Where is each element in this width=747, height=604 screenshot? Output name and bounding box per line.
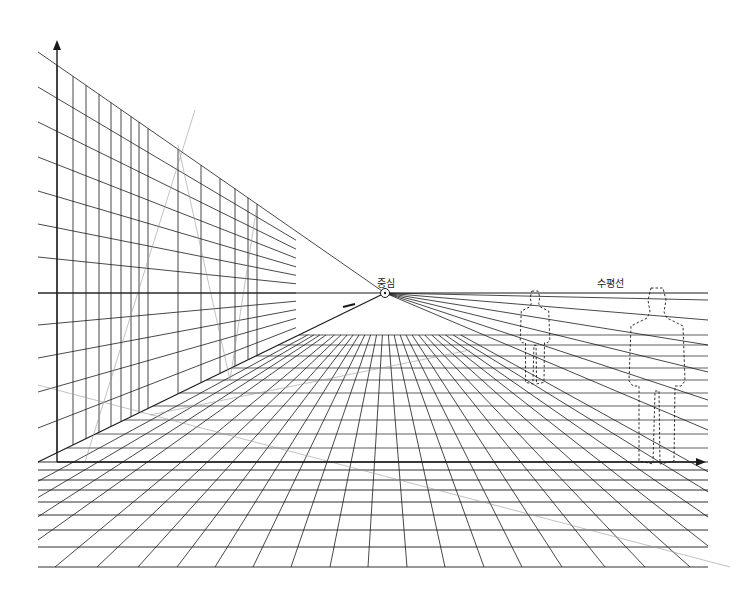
floor-radial-line (97, 335, 341, 567)
floor-radial-line (138, 335, 347, 567)
floor-right-receding-line (385, 293, 708, 372)
floor-radial-line (368, 335, 382, 567)
right-arrow-icon (696, 458, 706, 466)
floor-radial-line (461, 335, 708, 472)
floor-radial-line (394, 335, 445, 567)
floor-radial-line (38, 335, 308, 481)
floor-grid (38, 293, 708, 567)
floor-right-receding-line (385, 293, 708, 400)
vanishing-point-dot-icon (384, 292, 386, 294)
floor-radial-line (55, 335, 334, 567)
floor-radial-line (388, 335, 407, 567)
vp-marker-stroke (343, 304, 355, 307)
floor-right-receding-line (385, 293, 708, 320)
floor-radial-line (425, 335, 645, 567)
construction-line (38, 385, 730, 567)
floor-radial-line (412, 335, 562, 567)
floor-radial-line (406, 335, 522, 567)
floor-radial-line (400, 335, 484, 567)
floor-radial-line (419, 335, 605, 567)
wall-receding-line (38, 52, 385, 293)
axes (38, 40, 708, 466)
floor-radial-line (439, 335, 708, 546)
floor-right-receding-line (385, 293, 708, 300)
perspective-diagram (0, 0, 747, 604)
floor-radial-line (432, 335, 690, 567)
floor-radial-line (177, 335, 353, 567)
floor-radial-line (38, 335, 326, 540)
up-arrow-icon (53, 40, 61, 50)
floor-radial-line (291, 335, 371, 567)
center-label: 중심 (377, 275, 395, 290)
human-figures (520, 288, 685, 464)
floor-radial-line (38, 335, 314, 497)
construction-line (150, 350, 470, 415)
floor-right-receding-line (385, 293, 708, 345)
horizon-label: 수평선 (597, 275, 624, 290)
floor-radial-line (253, 335, 365, 567)
